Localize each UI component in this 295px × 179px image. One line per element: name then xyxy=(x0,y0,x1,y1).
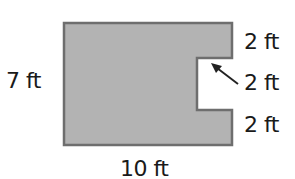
height-label: 7 ft xyxy=(6,70,41,92)
arrow-icon xyxy=(211,63,238,84)
notch-depth-label: 2 ft xyxy=(244,72,279,94)
notched-rectangle-shape xyxy=(64,23,232,145)
right-bottom-segment-label: 2 ft xyxy=(244,114,279,136)
composite-figure-diagram: 7 ft 2 ft 2 ft 2 ft 10 ft xyxy=(0,0,295,179)
right-top-segment-label: 2 ft xyxy=(244,31,279,53)
width-label: 10 ft xyxy=(120,158,168,179)
